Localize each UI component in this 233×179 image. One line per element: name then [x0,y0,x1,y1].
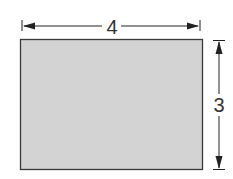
arrow-down-icon [216,156,223,169]
arrow-left-icon [23,23,35,30]
height-dimension: 3 [213,41,225,170]
width-label: 4 [106,16,117,38]
rectangle-diagram: 4 3 [0,0,233,179]
height-label: 3 [213,94,224,116]
rectangle [21,40,203,170]
arrow-right-icon [187,23,199,30]
width-dimension: 4 [22,16,200,38]
arrow-up-icon [216,41,223,54]
